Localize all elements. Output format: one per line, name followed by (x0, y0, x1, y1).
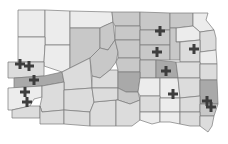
county (180, 40, 200, 62)
county (140, 96, 160, 112)
county (180, 112, 200, 126)
county (18, 10, 45, 37)
south-dakota-county-map (0, 0, 228, 144)
county (92, 88, 118, 102)
county (200, 50, 217, 64)
county (160, 112, 180, 124)
county (200, 64, 217, 80)
county (112, 12, 140, 26)
county (64, 110, 90, 126)
county (116, 100, 140, 126)
county (170, 13, 193, 28)
county (64, 88, 94, 112)
county (180, 96, 200, 112)
county (115, 26, 140, 40)
county (160, 98, 180, 112)
county (140, 112, 160, 124)
county (18, 37, 45, 62)
county (40, 82, 64, 112)
county (116, 58, 140, 72)
county (115, 40, 140, 58)
county (140, 12, 170, 30)
county (138, 78, 160, 96)
county (8, 62, 44, 78)
county (90, 100, 116, 126)
counties (8, 10, 218, 132)
county (176, 62, 200, 78)
county (45, 10, 70, 45)
county (118, 72, 140, 92)
county (178, 78, 200, 98)
county (140, 60, 156, 78)
county (200, 116, 214, 132)
county (200, 30, 216, 52)
county (44, 45, 70, 72)
